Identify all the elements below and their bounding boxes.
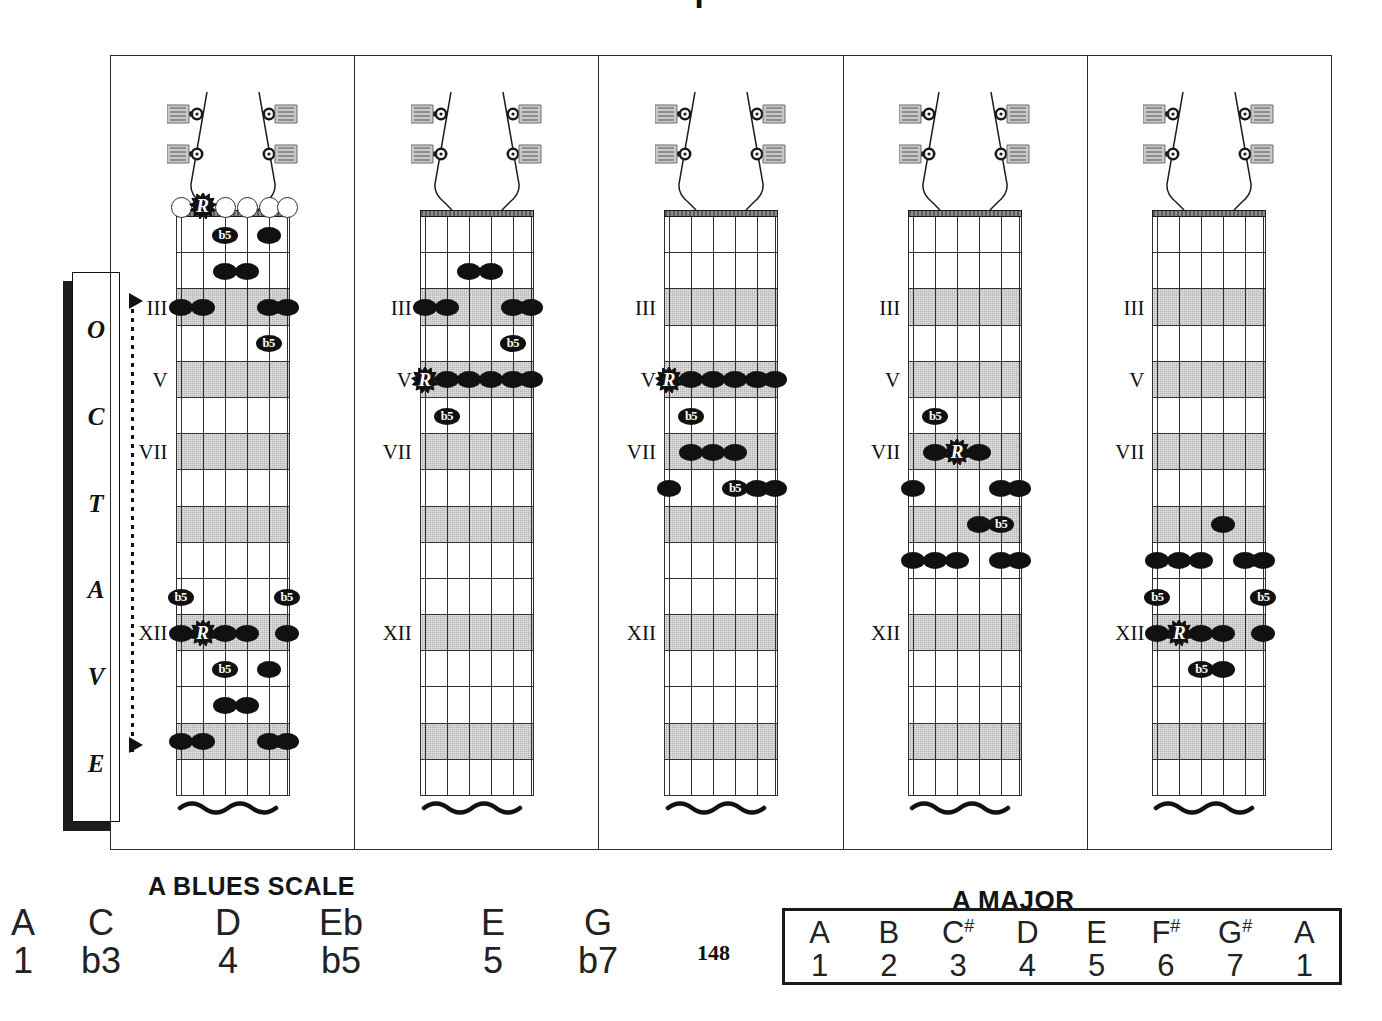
root-label: R [189, 620, 217, 646]
fret-grid: IIIVVIIXII Rb5b5 [664, 217, 778, 796]
open-root-marker: R [189, 193, 217, 219]
guitar-neck: IIIVVIIXII Rb5b5b5b5 Rb5 [176, 210, 290, 816]
neck-cut-wave-icon [906, 798, 1024, 816]
tuning-peg-icon [899, 145, 934, 163]
neck-cut-wave-icon [662, 798, 780, 816]
headstock [411, 92, 543, 214]
fret-marker-XII: XII [871, 621, 900, 646]
headstock [167, 92, 299, 214]
tuning-peg-icon [411, 145, 446, 163]
note-marker [1007, 480, 1031, 497]
note-marker [1007, 552, 1031, 569]
fret-5 [1153, 362, 1265, 398]
nut [908, 210, 1022, 217]
headstock [655, 92, 787, 214]
guitar-neck: IIIVVIIXIIb5b5 Rb5 [1152, 210, 1266, 816]
flat-five-note-marker: b5 [678, 408, 704, 425]
fret-6 [1153, 398, 1265, 434]
fret-13 [909, 651, 1021, 687]
diagram-cell-1: IIIVVIIXII Rb5b5b5b5 Rb5 [111, 56, 355, 849]
fret-marker-V: V [152, 367, 167, 392]
neck-tail [418, 798, 536, 816]
note-marker [763, 480, 787, 497]
note-marker [169, 299, 193, 316]
flat-five-note-marker: b5 [1250, 589, 1276, 606]
blues-degree: 4 [183, 940, 273, 982]
note-marker [519, 299, 543, 316]
a-major-degree: 2 [854, 949, 923, 983]
fret-marker-V: V [641, 367, 656, 392]
flat-five-note-marker: b5 [274, 589, 300, 606]
guitar-neck: IIIVVIIXIIb5 Rb5 [908, 210, 1022, 816]
fret-15 [1153, 724, 1265, 760]
a-major-box: ABC#DEF#G#A 12345671 [782, 908, 1342, 985]
accidental-sharp: # [1242, 916, 1252, 936]
fret-2 [909, 253, 1021, 289]
a-major-degree: 7 [1201, 949, 1270, 983]
fret-grid: IIIVVIIXIIb5 Rb5 [908, 217, 1022, 796]
fret-7 [1153, 434, 1265, 470]
fret-1 [665, 217, 777, 253]
fret-16 [1153, 760, 1265, 796]
tuning-peg-icon [167, 145, 202, 163]
fretboard-diagram-1: IIIVVIIXII Rb5b5b5b5 Rb5 [111, 56, 354, 849]
note-marker [275, 625, 299, 642]
fret-5 [177, 362, 289, 398]
headstock-icon [411, 92, 543, 214]
headstock [899, 92, 1031, 214]
octave-letter: A [88, 576, 105, 604]
tuning-peg-icon [411, 105, 446, 123]
fret-11 [665, 579, 777, 615]
a-major-degree: 3 [924, 949, 993, 983]
fret-8 [1153, 470, 1265, 506]
a-major-note: F# [1131, 916, 1200, 950]
note-marker [679, 444, 703, 461]
a-major-note: E [1062, 916, 1131, 950]
fret-1 [421, 217, 533, 253]
fret-marker-V: V [885, 367, 900, 392]
note-marker [1211, 625, 1235, 642]
headstock [1143, 92, 1275, 214]
fret-7 [421, 434, 533, 470]
fret-3 [1153, 289, 1265, 325]
fret-marker-III: III [147, 295, 168, 320]
fret-13 [421, 651, 533, 687]
diagram-cell-5: IIIVVIIXIIb5b5 Rb5 [1088, 56, 1331, 849]
note-marker [657, 480, 681, 497]
fret-9 [1153, 507, 1265, 543]
tuning-peg-icon [1240, 145, 1273, 163]
fret-marker-III: III [635, 295, 656, 320]
fret-7 [177, 434, 289, 470]
root-label: R [411, 367, 439, 393]
fret-12 [909, 615, 1021, 651]
neck-tail [174, 798, 292, 816]
fret-11 [909, 579, 1021, 615]
fretboard-diagram-3: IIIVVIIXII Rb5b5 [599, 56, 842, 849]
tuning-peg-icon [655, 145, 690, 163]
fret-16 [665, 760, 777, 796]
headstock-icon [167, 92, 299, 214]
tuning-peg-icon [508, 145, 541, 163]
fret-16 [177, 760, 289, 796]
fret-marker-VII: VII [1115, 440, 1144, 465]
fret-4 [665, 326, 777, 362]
a-major-note: A [785, 916, 854, 950]
blues-degree: 5 [448, 940, 538, 982]
fret-marker-VII: VII [138, 440, 167, 465]
root-note-marker: R [189, 620, 217, 646]
clipped-header-glyph: I [679, 0, 719, 8]
headstock-icon [899, 92, 1031, 214]
open-string-circle-3 [237, 197, 258, 218]
fret-9 [177, 507, 289, 543]
a-major-note: A [1270, 916, 1339, 950]
diagram-cell-4: IIIVVIIXIIb5 Rb5 [844, 56, 1088, 849]
open-string-circle-1 [277, 197, 298, 218]
fret-14 [665, 687, 777, 723]
fret-marker-III: III [1123, 295, 1144, 320]
fret-9 [665, 507, 777, 543]
blues-note: E [448, 902, 538, 944]
neck-tail [906, 798, 1024, 816]
fret-2 [1153, 253, 1265, 289]
fret-15 [909, 724, 1021, 760]
flat-five-note-marker: b5 [212, 227, 238, 244]
